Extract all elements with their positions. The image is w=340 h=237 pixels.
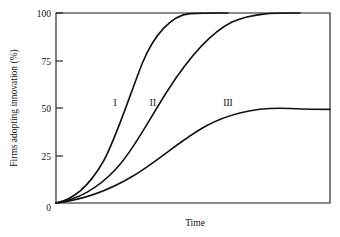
diffusion-curves-chart: 100 75 50 25 0 Firms adopting innovation… xyxy=(0,0,340,237)
x-axis-title: Time xyxy=(185,218,205,228)
curve-label-III: III xyxy=(223,98,233,108)
chart-page: 100 75 50 25 0 Firms adopting innovation… xyxy=(0,0,340,237)
y-axis-tick-labels: 100 75 50 25 0 xyxy=(37,9,52,213)
y-tick-label-0: 0 xyxy=(46,203,51,213)
y-axis-ticks xyxy=(56,13,63,156)
y-tick-label-25: 25 xyxy=(42,152,52,162)
curve-label-I: I xyxy=(113,98,116,108)
y-tick-label-50: 50 xyxy=(42,104,52,114)
curves-group xyxy=(56,13,330,203)
y-tick-label-100: 100 xyxy=(37,9,52,19)
y-axis-title: Firms adopting innovation (%) xyxy=(9,49,20,166)
curve-labels-group: I II III xyxy=(113,98,232,108)
curve-series-III xyxy=(56,108,330,203)
curve-series-I xyxy=(56,13,228,203)
curve-label-II: II xyxy=(150,98,156,108)
y-tick-label-75: 75 xyxy=(42,57,52,67)
curve-series-II xyxy=(56,13,300,203)
